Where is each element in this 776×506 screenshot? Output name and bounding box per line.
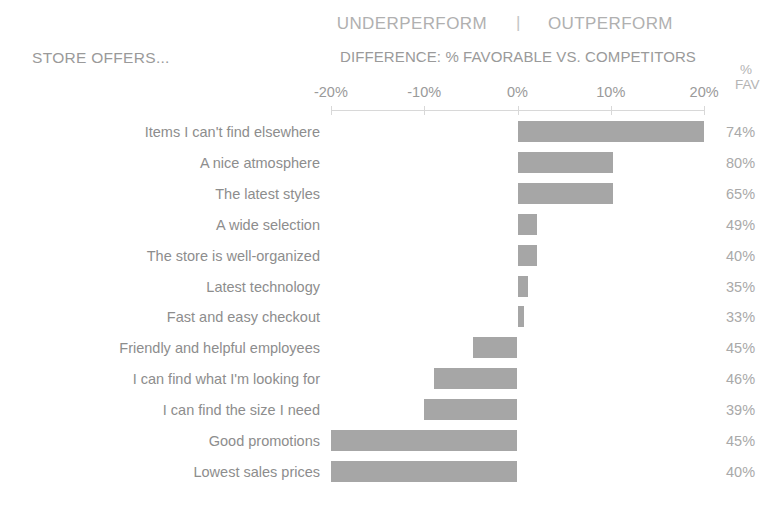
x-axis-tick-label: 20% [690, 84, 719, 100]
bar-category-label: Lowest sales prices [0, 464, 320, 480]
bar [518, 183, 613, 204]
bar-category-label: A wide selection [0, 217, 320, 233]
bar [518, 245, 538, 266]
x-axis-tick-mark [704, 106, 705, 115]
bar-row: Good promotions45% [0, 426, 776, 456]
fav-value: 65% [726, 186, 755, 202]
bar [518, 276, 528, 297]
bar-category-label: The latest styles [0, 186, 320, 202]
plot-area: -20%-10%0%10%20%Items I can't find elsew… [0, 0, 776, 506]
fav-value: 49% [726, 217, 755, 233]
bar-row: A wide selection49% [0, 210, 776, 240]
bar-row: The store is well-organized40% [0, 241, 776, 271]
x-axis-tick-label: -10% [407, 84, 441, 100]
bar-row: Fast and easy checkout33% [0, 302, 776, 332]
bar-row: Friendly and helpful employees45% [0, 333, 776, 363]
bar [518, 121, 705, 142]
bar-category-label: I can find what I'm looking for [0, 371, 320, 387]
fav-value: 45% [726, 340, 755, 356]
x-axis-tick-mark [424, 106, 425, 115]
chart-container: UNDERPERFORM | OUTPERFORM STORE OFFERS..… [0, 0, 776, 506]
bar-row: Items I can't find elsewhere74% [0, 117, 776, 147]
bar-category-label: Items I can't find elsewhere [0, 124, 320, 140]
bar-row: Latest technology35% [0, 272, 776, 302]
x-axis-tick-mark [611, 106, 612, 115]
bar-row: The latest styles65% [0, 179, 776, 209]
bar-category-label: I can find the size I need [0, 402, 320, 418]
fav-value: 33% [726, 309, 755, 325]
fav-value: 46% [726, 371, 755, 387]
x-axis-tick-mark [331, 106, 332, 115]
fav-value: 39% [726, 402, 755, 418]
bar-category-label: A nice atmosphere [0, 155, 320, 171]
bar [331, 430, 518, 451]
bar-row: I can find what I'm looking for46% [0, 364, 776, 394]
bar [424, 399, 517, 420]
bar [473, 337, 518, 358]
bar-category-label: Good promotions [0, 433, 320, 449]
bar-category-label: Latest technology [0, 279, 320, 295]
bar-row: Lowest sales prices40% [0, 457, 776, 487]
bar-category-label: The store is well-organized [0, 248, 320, 264]
x-axis-tick-label: 0% [507, 84, 528, 100]
fav-value: 74% [726, 124, 755, 140]
x-axis-tick-mark [518, 106, 519, 115]
x-axis-tick-label: -20% [314, 84, 348, 100]
bar [518, 306, 525, 327]
bar-row: I can find the size I need39% [0, 395, 776, 425]
bar-row: A nice atmosphere80% [0, 148, 776, 178]
bar [331, 461, 518, 482]
bar [518, 214, 538, 235]
bar-category-label: Fast and easy checkout [0, 309, 320, 325]
x-axis-tick-label: 10% [596, 84, 625, 100]
fav-value: 80% [726, 155, 755, 171]
bar-category-label: Friendly and helpful employees [0, 340, 320, 356]
fav-value: 35% [726, 279, 755, 295]
bar [434, 368, 517, 389]
fav-value: 40% [726, 248, 755, 264]
bar [518, 152, 613, 173]
fav-value: 40% [726, 464, 755, 480]
fav-value: 45% [726, 433, 755, 449]
